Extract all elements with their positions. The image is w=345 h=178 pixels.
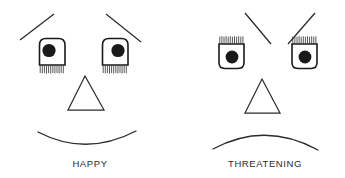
happy-label: HAPPY [72, 158, 107, 169]
happy-right-pupil [111, 44, 124, 57]
threatening-label: THREATENING [228, 158, 302, 169]
threatening-right-pupil [299, 51, 312, 64]
threatening-left-pupil [226, 51, 239, 64]
diagram-background [0, 0, 345, 178]
happy-left-pupil [42, 44, 55, 57]
two-faces-diagram: HAPPY [0, 0, 345, 178]
